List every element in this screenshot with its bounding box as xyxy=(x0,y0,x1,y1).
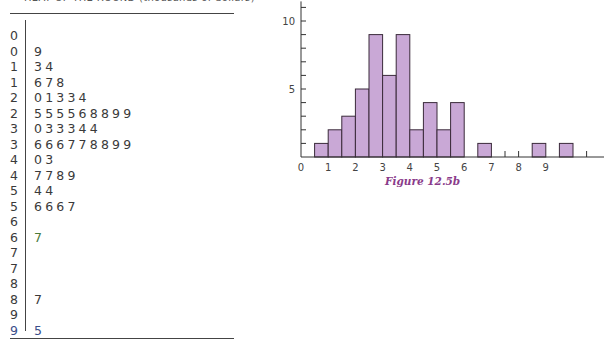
leaf-values: 033344 xyxy=(34,120,101,137)
stem-value: 0 xyxy=(10,43,20,60)
histogram-bar xyxy=(369,35,383,157)
leaf-values: 6667 xyxy=(34,198,79,215)
leaf-values: 555568899 xyxy=(34,105,134,122)
stem-value: 1 xyxy=(10,58,20,75)
stem-value: 1 xyxy=(10,74,20,91)
header-text: HEAT OF THE ROUND (thousands of dollars) xyxy=(24,0,255,3)
x-tick-label: 5 xyxy=(434,162,440,173)
leaf-values: 7 xyxy=(34,291,45,308)
y-tick-label: 5 xyxy=(289,84,295,95)
x-tick-label: 6 xyxy=(461,162,467,173)
stem-value: 9 xyxy=(10,322,20,339)
stem-value: 6 xyxy=(10,213,20,230)
top-rule xyxy=(10,13,234,14)
figure-caption: Figure 12.5b xyxy=(385,175,460,187)
histogram: 5100123456789 xyxy=(270,0,604,175)
stem-value: 9 xyxy=(10,306,20,323)
histogram-bar xyxy=(355,89,369,157)
histogram-bar xyxy=(396,35,410,157)
histogram-bar xyxy=(478,143,492,157)
stem-leaf-row: 9 xyxy=(0,306,240,323)
stem-value: 3 xyxy=(10,120,20,137)
stem-leaf-row: 7 xyxy=(0,260,240,277)
leaf-values: 678 xyxy=(34,74,67,91)
leaf-values: 666778899 xyxy=(34,136,134,153)
histogram-bar xyxy=(315,143,329,157)
x-tick-label: 8 xyxy=(515,162,521,173)
leaf-values: 7 xyxy=(34,229,45,246)
stem-value: 3 xyxy=(10,136,20,153)
leaf-values: 9 xyxy=(34,43,45,60)
stem-value: 6 xyxy=(10,229,20,246)
histogram-bar xyxy=(342,116,356,157)
stem-leaf-row: 09 xyxy=(0,43,240,60)
bottom-rule xyxy=(10,338,234,339)
stem-leaf-row: 3666778899 xyxy=(0,136,240,153)
leaf-values: 44 xyxy=(34,182,56,199)
stem-leaf-row: 2555568899 xyxy=(0,105,240,122)
x-tick-label: 4 xyxy=(407,162,413,173)
stem-leaf-row: 56667 xyxy=(0,198,240,215)
histogram-bar xyxy=(328,130,342,157)
stem-value: 7 xyxy=(10,260,20,277)
stem-leaf-row: 87 xyxy=(0,291,240,308)
stem-leaf-row: 1678 xyxy=(0,74,240,91)
leaf-values: 5 xyxy=(34,322,45,339)
x-tick-label: 1 xyxy=(325,162,331,173)
leaf-values: 34 xyxy=(34,58,56,75)
stem-value: 0 xyxy=(10,27,20,44)
histogram-bar xyxy=(437,130,451,157)
stem-leaf-row: 403 xyxy=(0,151,240,168)
stem-value: 8 xyxy=(10,291,20,308)
histogram-bar xyxy=(423,103,437,157)
y-tick-label: 10 xyxy=(282,16,295,27)
stem-value: 8 xyxy=(10,275,20,292)
stem-leaf-row: 3033344 xyxy=(0,120,240,137)
stem-leaf-row: 7 xyxy=(0,244,240,261)
stem-leaf-row: 544 xyxy=(0,182,240,199)
stem-value: 4 xyxy=(10,151,20,168)
x-tick-label: 3 xyxy=(379,162,385,173)
stem-leaf-row: 0 xyxy=(0,27,240,44)
x-tick-label: 7 xyxy=(488,162,494,173)
histogram-bar xyxy=(532,143,546,157)
stem-value: 4 xyxy=(10,167,20,184)
stem-leaf-row: 47789 xyxy=(0,167,240,184)
leaf-values: 7789 xyxy=(34,167,79,184)
stem-leaf-row: 201334 xyxy=(0,89,240,106)
stem-value: 7 xyxy=(10,244,20,261)
histogram-bar xyxy=(383,75,397,157)
stem-leaf-row: 8 xyxy=(0,275,240,292)
leaf-values: 01334 xyxy=(34,89,90,106)
leaf-values: 03 xyxy=(34,151,56,168)
stem-value: 5 xyxy=(10,182,20,199)
stem-leaf-row: 67 xyxy=(0,229,240,246)
x-tick-label: 9 xyxy=(543,162,549,173)
stem-leaf-row: 6 xyxy=(0,213,240,230)
histogram-bar xyxy=(451,103,465,157)
stem-leaf-row: 95 xyxy=(0,322,240,339)
histogram-bar xyxy=(410,130,424,157)
x-tick-label: 0 xyxy=(298,162,304,173)
x-tick-label: 2 xyxy=(352,162,358,173)
stem-value: 5 xyxy=(10,198,20,215)
stem-leaf-row: 134 xyxy=(0,58,240,75)
stem-value: 2 xyxy=(10,105,20,122)
stem-value: 2 xyxy=(10,89,20,106)
histogram-bar xyxy=(559,143,573,157)
